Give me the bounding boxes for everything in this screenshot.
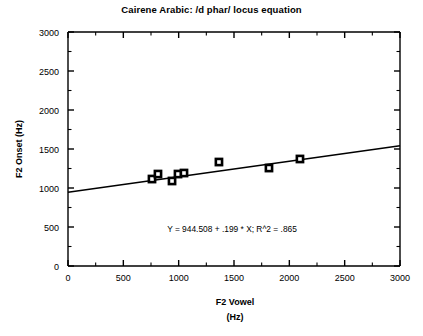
x-tick-label: 0 (65, 273, 70, 283)
regression-line (68, 146, 400, 193)
x-tick-label: 3000 (390, 273, 410, 283)
y-tick-label: 1000 (39, 184, 59, 194)
x-tick-label: 1500 (224, 273, 244, 283)
y-axis-minor-ticks (68, 52, 400, 247)
y-tick-label: 3000 (39, 28, 59, 38)
y-tick-label: 2000 (39, 106, 59, 116)
x-axis-title: F2 Vowel (216, 297, 254, 307)
locus-equation-scatter-plot: 050010001500200025003000 050010001500200… (0, 0, 423, 336)
chart-figure: Cairene Arabic: /d phar/ locus equation … (0, 0, 423, 336)
y-axis-ticks: 050010001500200025003000 (39, 28, 400, 272)
data-point-marker (297, 156, 303, 162)
data-point-marker (155, 171, 161, 177)
regression-equation-annotation: Y = 944.508 + .199 * X; R^2 = .865 (167, 224, 297, 234)
data-point-marker (266, 165, 272, 171)
x-tick-label: 500 (116, 273, 131, 283)
y-axis-title: F2 Onset (Hz) (14, 120, 24, 178)
y-tick-label: 500 (44, 223, 59, 233)
x-tick-label: 1000 (169, 273, 189, 283)
data-point-marker (181, 170, 187, 176)
data-point-marker (216, 159, 222, 165)
x-axis-ticks: 050010001500200025003000 (65, 32, 410, 283)
x-axis-unit-label: (Hz) (227, 312, 244, 322)
y-tick-label: 0 (54, 262, 59, 272)
y-tick-label: 1500 (39, 145, 59, 155)
x-tick-label: 2000 (279, 273, 299, 283)
data-point-marker (169, 178, 175, 184)
x-tick-label: 2500 (335, 273, 355, 283)
y-tick-label: 2500 (39, 67, 59, 77)
